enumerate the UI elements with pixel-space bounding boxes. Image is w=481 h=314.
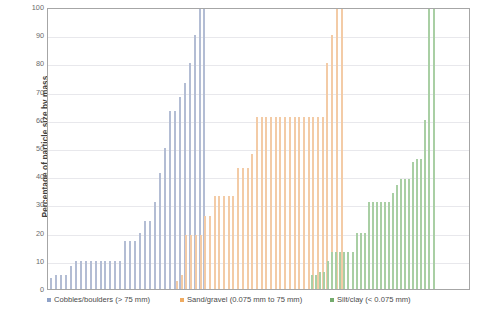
y-tick-label: 90 [18,32,44,39]
bar [154,202,156,289]
y-tick-label: 50 [18,145,44,152]
bar [181,275,183,289]
bar [384,202,386,289]
bar [298,117,300,289]
bar [294,117,296,289]
gridline [48,94,469,95]
legend-item-cobbles-boulders[interactable]: Cobbles/boulders (> 75 mm) [47,296,150,304]
y-tick-label: 30 [18,201,44,208]
bar [129,241,131,289]
bar [372,202,374,289]
bar [308,117,310,289]
legend-swatch-icon-sand [180,298,184,302]
bar [364,233,366,289]
bar [185,235,187,289]
y-tick-label: 100 [18,4,44,11]
bar [424,120,426,289]
bar [200,235,202,289]
bar [90,261,92,289]
y-tick-label: 80 [18,60,44,67]
bar [265,117,267,289]
bar [228,196,230,289]
legend-label-silt: Silt/clay (< 0.075 mm) [337,296,411,304]
bar [352,252,354,289]
legend-item-silt-clay[interactable]: Silt/clay (< 0.075 mm) [330,296,411,304]
y-tick-label: 0 [18,286,44,293]
bar [261,117,263,289]
bar [356,233,358,289]
y-tick-label: 10 [18,258,44,265]
legend-swatch-icon-silt [330,298,334,302]
bar [396,185,398,289]
gridline [48,37,469,38]
bar [179,97,181,289]
bar [232,196,234,289]
bar [433,8,435,289]
bar [275,117,277,289]
bar [336,8,338,289]
bar [368,202,370,289]
bar [100,261,102,289]
bar [343,252,345,289]
bar [303,117,305,289]
y-tick-label: 40 [18,173,44,180]
legend-label-sand: Sand/gravel (0.075 mm to 75 mm) [187,296,302,304]
bar [380,202,382,289]
bar [327,261,329,289]
bar [416,159,418,289]
bar [95,261,97,289]
bar [270,117,272,289]
bar [311,275,313,289]
y-tick-label: 60 [18,117,44,124]
bar [60,275,62,289]
bar [335,252,337,289]
bar [312,117,314,289]
bar [80,261,82,289]
bar [360,233,362,289]
bar [144,221,146,289]
bar [322,117,324,289]
bar [195,235,197,289]
bar [323,272,325,289]
bar [331,35,333,289]
particle-size-distribution-chart: Percentage of particle size by mass 0102… [0,0,481,314]
bar [164,148,166,289]
bar [139,233,141,289]
bar [247,168,249,289]
bar [284,117,286,289]
gridline [48,65,469,66]
bar [392,193,394,289]
bar [109,261,111,289]
legend-item-sand-gravel[interactable]: Sand/gravel (0.075 mm to 75 mm) [180,296,302,304]
bar [376,202,378,289]
bar [223,196,225,289]
gridline [48,122,469,123]
bar [319,272,321,289]
gridline [48,150,469,151]
bar [134,241,136,289]
bar [289,117,291,289]
bar [214,196,216,289]
bar [339,252,341,289]
bar [65,275,67,289]
bar [190,235,192,289]
y-tick-label: 20 [18,230,44,237]
bar [85,261,87,289]
bar [279,117,281,289]
bar [408,179,410,289]
legend-label-cobbles: Cobbles/boulders (> 75 mm) [54,296,150,304]
bar [50,278,52,289]
bar [114,261,116,289]
bar [428,8,430,289]
bar [251,154,253,289]
bar [209,216,211,289]
bar [218,196,220,289]
bar [149,221,151,289]
bar [326,63,328,289]
bar [75,261,77,289]
bar [412,162,414,289]
bar [119,261,121,289]
bar [388,202,390,289]
bar [104,261,106,289]
bar [124,241,126,289]
